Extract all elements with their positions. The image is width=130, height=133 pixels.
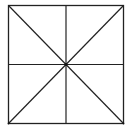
center-point <box>65 63 68 66</box>
corner-point-br <box>123 123 125 125</box>
divided-square-diagram <box>0 0 130 133</box>
corner-point-bl <box>8 123 10 125</box>
